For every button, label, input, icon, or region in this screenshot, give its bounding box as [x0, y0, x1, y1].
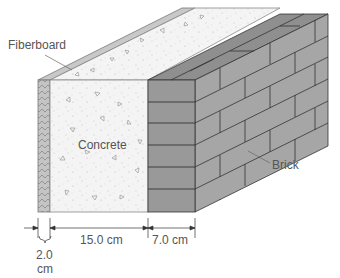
- fiberboard-label: Fiberboard: [8, 38, 66, 52]
- fiberboard-dimension: 2.0: [36, 248, 53, 262]
- composite-wall-diagram: Fiberboard Concrete Brick 15.0 cm 7.0 cm…: [0, 0, 340, 278]
- fiberboard-dimension-unit: cm: [37, 262, 53, 276]
- fiberboard-leader-line: [45, 55, 72, 70]
- brick-dimension: 7.0 cm: [152, 233, 188, 247]
- brick-label: Brick: [272, 158, 300, 172]
- concrete-dimension: 15.0 cm: [80, 233, 123, 247]
- concrete-label: Concrete: [78, 138, 127, 152]
